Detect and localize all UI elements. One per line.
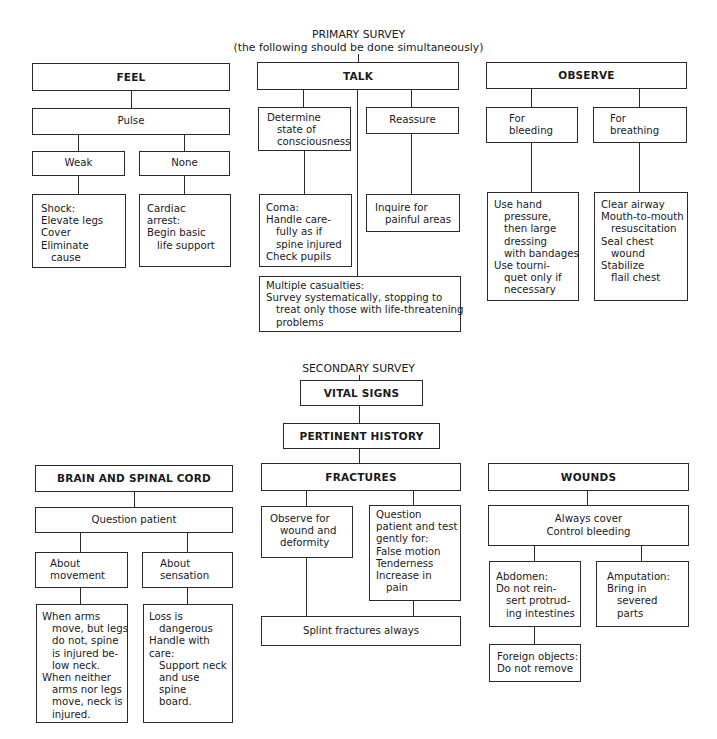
brain-spinal-cord-header: BRAIN AND SPINAL CORD — [35, 465, 233, 492]
text-line: Do not rein- — [496, 583, 575, 595]
text-line: Handle with — [149, 635, 227, 647]
text-line: About — [50, 558, 122, 570]
text-line: Question — [376, 509, 455, 521]
text-line: sensation — [160, 570, 227, 582]
text-line: When arms — [42, 611, 122, 623]
connector — [531, 142, 532, 192]
text-line: Clear airway — [601, 199, 682, 211]
text-line: patient and test — [376, 521, 455, 533]
text-line: breathing — [610, 125, 681, 137]
connector — [534, 626, 535, 644]
text-line: Loss is — [149, 611, 227, 623]
inquire-box: Inquire for painful areas — [366, 194, 460, 232]
text-line: Determine — [267, 112, 345, 124]
feel-header: FEEL — [32, 63, 230, 91]
connector — [306, 557, 307, 616]
text-line: do not, spine — [42, 635, 122, 647]
text-line: parts — [607, 608, 683, 620]
text-line: is injured be- — [42, 648, 122, 660]
connector — [639, 142, 640, 192]
text-line: Eliminate — [41, 240, 120, 252]
text-line: quet only if — [494, 272, 573, 284]
text-line: move, neck is — [42, 696, 122, 708]
shock-box: Shock: Elevate legs Cover Eliminate caus… — [32, 194, 126, 268]
text-line: move, but legs — [42, 623, 122, 635]
pulse-box: Pulse — [32, 108, 230, 135]
text-line: injured. — [42, 709, 122, 721]
abdomen-box: Abdomen: Do not rein- sert protrud- ing … — [489, 561, 581, 627]
connector — [587, 490, 588, 505]
multiple-casualties-box: Multiple casualties: Survey systematical… — [259, 276, 461, 332]
connector — [639, 88, 640, 107]
primary-survey-title: PRIMARY SURVEY — [0, 28, 717, 41]
text-line: flail chest — [601, 272, 682, 284]
text-line: Increase in — [376, 570, 455, 582]
vital-signs-box: VITAL SIGNS — [300, 380, 423, 406]
text-line: sert protrud- — [496, 595, 575, 607]
connector — [411, 89, 412, 107]
determine-consciousness-box: Determine state of consciousness — [258, 107, 351, 151]
text-line: spine injured — [266, 239, 346, 251]
connector — [641, 545, 642, 561]
text-line: Observe for — [270, 513, 347, 525]
text-line: Control bleeding — [546, 526, 630, 538]
text-line: Cardiac — [147, 203, 225, 215]
connector — [303, 89, 304, 107]
question-patient-box: Question patient — [35, 507, 233, 533]
bleeding-actions-box: Use hand pressure, then large dressing w… — [487, 192, 579, 301]
text-line: consciousness — [267, 136, 345, 148]
text-line: False motion — [376, 546, 455, 558]
pertinent-history-box: PERTINENT HISTORY — [283, 423, 440, 449]
reassure-box: Reassure — [366, 107, 459, 134]
connector — [531, 88, 532, 107]
secondary-survey-title: SECONDARY SURVEY — [0, 362, 717, 375]
text-line: Shock: — [41, 203, 120, 215]
text-line: board. — [149, 696, 227, 708]
text-line: Inquire for — [375, 202, 454, 214]
connector — [184, 134, 185, 151]
text-line: care: — [149, 648, 227, 660]
text-line: ing intestines — [496, 608, 575, 620]
text-line: Use tourni- — [494, 260, 573, 272]
splint-fractures-box: Splint fractures always — [261, 616, 461, 646]
for-bleeding-box: For bleeding — [486, 107, 578, 143]
text-line: dangerous — [149, 623, 227, 635]
text-line: Mouth-to-mouth — [601, 211, 682, 223]
about-sensation-box: About sensation — [142, 552, 233, 588]
text-line: then large — [494, 223, 573, 235]
text-line: Bring in — [607, 583, 683, 595]
text-line: Do not remove — [497, 663, 575, 675]
text-line: pain — [376, 582, 455, 594]
text-line: Seal chest — [601, 236, 682, 248]
text-line: Abdomen: — [496, 571, 575, 583]
text-line: Elevate legs — [41, 215, 120, 227]
connector — [131, 90, 132, 108]
text-line: dressing — [494, 236, 573, 248]
text-line: For — [509, 113, 572, 125]
text-line: deformity — [270, 537, 347, 549]
text-line: low neck. — [42, 660, 122, 672]
text-line: bleeding — [509, 125, 572, 137]
text-line: Foreign objects: — [497, 651, 575, 663]
text-line: Check pupils — [266, 251, 346, 263]
connector — [413, 600, 414, 616]
about-movement-box: About movement — [35, 552, 128, 588]
connector — [78, 175, 79, 194]
text-line: fully as if — [266, 226, 346, 238]
always-cover-box: Always cover Control bleeding — [488, 505, 689, 546]
text-line: spine — [149, 684, 227, 696]
sensation-detail-box: Loss is dangerous Handle with care: Supp… — [143, 604, 233, 723]
foreign-objects-box: Foreign objects: Do not remove — [489, 644, 581, 682]
connector — [184, 175, 185, 194]
connector — [134, 491, 135, 507]
movement-detail-box: When arms move, but legs do not, spine i… — [36, 604, 128, 723]
connector — [306, 490, 307, 506]
text-line: wound — [601, 248, 682, 260]
text-line: movement — [50, 570, 122, 582]
connector — [357, 89, 358, 276]
text-line: Amputation: — [607, 571, 683, 583]
text-line: Begin basic — [147, 227, 225, 239]
text-line: Coma: — [266, 202, 346, 214]
text-line: Multiple casualties: — [266, 280, 455, 292]
text-line: About — [160, 558, 227, 570]
